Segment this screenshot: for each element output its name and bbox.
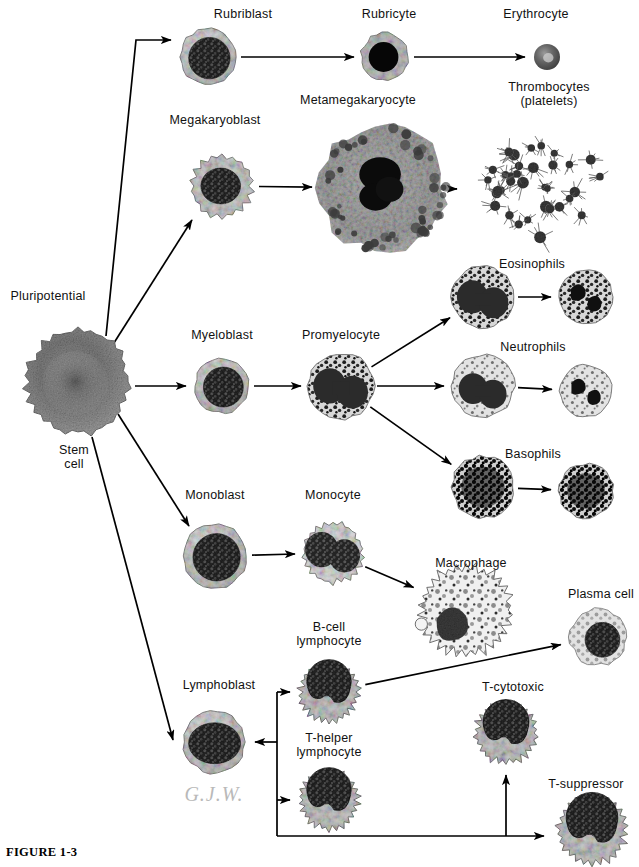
cell-t-suppressor (555, 792, 628, 866)
cell-eosinophil-mature (559, 270, 613, 324)
cell-pluripotential-stem-cell (23, 327, 132, 436)
cell-neutrophil-immature (451, 354, 515, 418)
cell-rubriblast (180, 28, 236, 84)
cell-plasma-cell (568, 608, 626, 665)
cell-lymphoblast (183, 711, 245, 775)
cell-erythrocyte (534, 44, 560, 70)
cell-rubricyte (360, 32, 408, 81)
cell-basophil-mature (558, 463, 613, 519)
cell-monoblast (183, 524, 246, 588)
cell-thrombocyte-cluster (478, 136, 608, 253)
figure-caption: FIGURE 1-3 (6, 845, 77, 860)
cell-t-helper-lymphocyte (299, 768, 361, 833)
figure-number: FIGURE 1-3 (6, 845, 77, 860)
cell-megakaryoblast (190, 154, 255, 220)
cell-macrophage (415, 563, 513, 657)
diagram-canvas (0, 0, 639, 867)
cell-layer (23, 28, 629, 867)
cell-promyelocyte (307, 355, 375, 421)
hematopoiesis-figure: PluripotentialStem cellRubriblastRubricy… (0, 0, 639, 867)
cell-t-cytotoxic (473, 699, 538, 764)
cell-monocyte (302, 522, 365, 586)
cell-basophil-immature (451, 455, 513, 519)
cell-metamegakaryocyte (315, 123, 451, 253)
cell-myeloblast (195, 358, 249, 414)
cell-eosinophil-immature (451, 266, 514, 329)
cell-b-cell-lymphocyte (297, 660, 362, 724)
cell-neutrophil-mature (559, 364, 612, 416)
